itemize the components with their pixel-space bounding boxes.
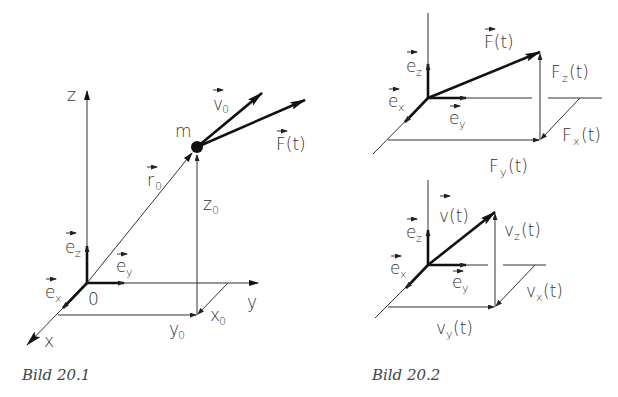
svg-text:y: y <box>446 328 453 341</box>
svg-text:e: e <box>390 258 400 278</box>
svg-text:(t): (t) <box>521 220 541 240</box>
label-y: y <box>247 292 257 312</box>
svg-text:x: x <box>573 135 580 148</box>
svg-text:F: F <box>562 125 572 145</box>
svg-text:v: v <box>526 281 536 301</box>
svg-text:0: 0 <box>155 180 162 193</box>
label-v-bottom: v(t) <box>439 196 469 226</box>
label-Fz: F z (t) <box>551 62 589 85</box>
label-ex: e x <box>45 279 62 305</box>
caption-bild-20-1: Bild 20.1 <box>21 366 90 384</box>
ex-unit-vector <box>63 283 87 308</box>
svg-text:x: x <box>398 101 405 114</box>
svg-text:e: e <box>388 91 398 111</box>
label-force: F(t) <box>276 131 306 154</box>
svg-text:0: 0 <box>178 329 185 342</box>
svg-text:y: y <box>459 118 466 131</box>
svg-text:y: y <box>126 266 133 279</box>
svg-text:x: x <box>55 292 62 305</box>
label-mass: m <box>175 121 192 141</box>
label-ey-top: e y <box>449 106 466 131</box>
label-ez-bottom: e z <box>406 219 422 245</box>
svg-text:e: e <box>452 272 462 292</box>
svg-text:x: x <box>400 268 407 281</box>
svg-text:z: z <box>416 232 422 245</box>
svg-text:z: z <box>416 66 422 79</box>
caption-bild-20-2: Bild 20.2 <box>371 366 440 384</box>
label-vz: v z (t) <box>504 220 541 243</box>
svg-text:(t): (t) <box>581 125 601 145</box>
svg-text:(t): (t) <box>543 281 563 301</box>
label-z0: z 0 <box>203 194 219 217</box>
label-origin: 0 <box>88 289 99 309</box>
label-vx: v x (t) <box>526 281 563 304</box>
label-vy: v y (t) <box>436 318 473 341</box>
force-vector-F-top <box>428 52 540 98</box>
figure-20-2-force: F(t) F z (t) F x (t) F y (t) e z e y <box>373 13 602 179</box>
label-ex-bottom: e x <box>390 256 407 281</box>
svg-text:e: e <box>449 108 459 128</box>
label-Fy: F y (t) <box>489 156 528 179</box>
svg-text:e: e <box>406 56 416 76</box>
svg-text:y: y <box>462 282 469 295</box>
label-F-top: F(t) <box>484 29 514 52</box>
label-ez: e z <box>65 233 81 260</box>
svg-text:F(t): F(t) <box>484 32 514 52</box>
svg-text:e: e <box>406 222 416 242</box>
ex-unit-vector-top <box>405 98 428 122</box>
svg-text:0: 0 <box>219 315 226 328</box>
diagram-canvas: z y x 0 m r 0 v 0 F(t) z 0 e z e y <box>0 0 618 397</box>
label-ey-bottom: e y <box>452 271 469 295</box>
label-x: x <box>44 331 54 351</box>
svg-text:y: y <box>500 166 507 179</box>
figure-20-2-velocity: v(t) v z (t) v x (t) v y (t) e z e y <box>371 180 563 384</box>
svg-text:e: e <box>65 237 75 257</box>
label-v0: v 0 <box>213 90 229 116</box>
svg-text:F: F <box>551 62 561 82</box>
label-y0: y 0 <box>169 319 185 342</box>
svg-text:z: z <box>75 247 81 260</box>
svg-text:z: z <box>514 230 520 243</box>
svg-text:(t): (t) <box>569 62 589 82</box>
position-vector-r0 <box>87 153 192 283</box>
svg-text:v: v <box>436 318 446 338</box>
svg-text:x: x <box>536 291 543 304</box>
label-ey: e y <box>116 254 133 279</box>
svg-text:(t): (t) <box>508 156 528 176</box>
mass-point <box>191 141 203 153</box>
label-ez-top: e z <box>406 52 422 79</box>
svg-text:F: F <box>489 156 499 176</box>
svg-text:0: 0 <box>222 103 229 116</box>
figure-20-1: z y x 0 m r 0 v 0 F(t) z 0 e z e y <box>21 85 306 384</box>
svg-text:z: z <box>562 72 568 85</box>
velocity-vector-v0 <box>197 93 262 147</box>
svg-text:(t): (t) <box>453 318 473 338</box>
svg-text:z: z <box>203 194 212 214</box>
ex-unit-vector-bottom <box>406 265 428 288</box>
svg-text:e: e <box>116 256 126 276</box>
svg-text:e: e <box>45 282 55 302</box>
label-x0: x 0 <box>210 305 226 328</box>
label-ex-top: e x <box>388 89 405 114</box>
label-r0: r 0 <box>147 167 162 193</box>
svg-text:0: 0 <box>212 204 219 217</box>
svg-text:F(t): F(t) <box>276 134 306 154</box>
svg-text:v: v <box>504 220 514 240</box>
svg-text:v(t): v(t) <box>439 206 469 226</box>
Fx-component <box>541 98 580 139</box>
label-Fx: F x (t) <box>562 125 601 148</box>
svg-text:r: r <box>147 170 154 190</box>
label-z: z <box>67 85 76 105</box>
